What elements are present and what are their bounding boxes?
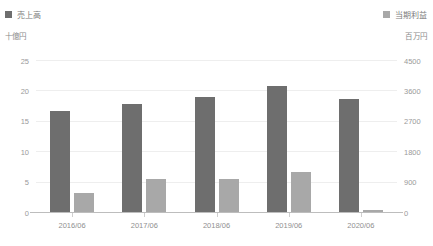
bar-sales <box>50 111 70 213</box>
bar-groups <box>36 61 397 213</box>
bar-group <box>108 61 180 213</box>
legend-label-profit: 当期利益 <box>395 9 427 20</box>
bar-profit <box>219 179 239 213</box>
y-tick-right: 900 <box>404 179 417 187</box>
x-axis-label: 2019/06 <box>253 218 325 234</box>
x-tickmark <box>289 213 290 217</box>
y-axis-unit-right: 百万円 <box>405 30 427 41</box>
plot-area: 0510152025 09001800270036004500 <box>36 61 397 213</box>
x-tickmark <box>361 213 362 217</box>
bar-sales <box>122 104 142 213</box>
x-axis-label: 2020/06 <box>325 218 397 234</box>
y-tick-left: 5 <box>25 179 29 187</box>
x-tickmark <box>144 213 145 217</box>
y-tick-left: 20 <box>21 88 29 96</box>
y-tick-left: 25 <box>21 58 29 66</box>
x-axis-label: 2018/06 <box>180 218 252 234</box>
x-tickmark <box>72 213 73 217</box>
x-tickmark <box>217 213 218 217</box>
y-tick-right: 3600 <box>404 88 421 96</box>
y-tick-right: 2700 <box>404 118 421 126</box>
y-tick-right: 1800 <box>404 149 421 157</box>
y-axis-unit-left: 十億円 <box>5 30 27 41</box>
bar-group <box>180 61 252 213</box>
x-axis-labels: 2016/062017/062018/062019/062020/06 <box>36 218 397 234</box>
bar-group <box>36 61 108 213</box>
legend-item-profit: 当期利益 <box>383 9 427 20</box>
legend-label-sales: 売上高 <box>17 9 41 20</box>
y-tick-left: 15 <box>21 118 29 126</box>
bar-sales <box>195 97 215 213</box>
bar-group <box>325 61 397 213</box>
y-tick-left: 10 <box>21 149 29 157</box>
legend-item-sales: 売上高 <box>5 9 41 20</box>
x-axis-label: 2016/06 <box>36 218 108 234</box>
bar-sales <box>339 99 359 213</box>
bar-profit <box>291 172 311 213</box>
legend-swatch-profit <box>383 11 390 18</box>
bar-chart: 売上高 当期利益 十億円 百万円 0510152025 090018002700… <box>0 0 433 246</box>
bar-sales <box>267 86 287 213</box>
y-tick-right: 0 <box>404 210 408 218</box>
bar-group <box>253 61 325 213</box>
axis-baseline <box>30 212 403 213</box>
y-tick-left: 0 <box>25 210 29 218</box>
bar-profit <box>146 179 166 213</box>
bar-profit <box>74 193 94 213</box>
x-axis-label: 2017/06 <box>108 218 180 234</box>
y-tick-right: 4500 <box>404 58 421 66</box>
legend-swatch-sales <box>5 11 12 18</box>
